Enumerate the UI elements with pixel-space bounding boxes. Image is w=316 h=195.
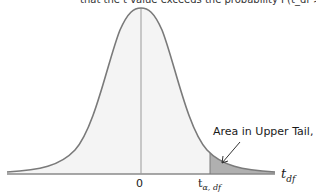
upper-tail-annotation: Area in Upper Tail, α [213,125,316,138]
annotation-arrow [222,142,240,163]
clipped-header-text: that the t value exceeds the probability… [80,0,316,5]
axis-variable-label: tdf [281,166,295,184]
annotation-text: Area in Upper Tail, [213,125,316,138]
center-tick-label: 0 [136,177,143,190]
t-distribution-diagram [0,0,316,195]
critical-value-label: tα, df [198,177,221,192]
critical-label-sub: α, df [202,183,221,192]
variable-label-sub: df [286,174,295,184]
